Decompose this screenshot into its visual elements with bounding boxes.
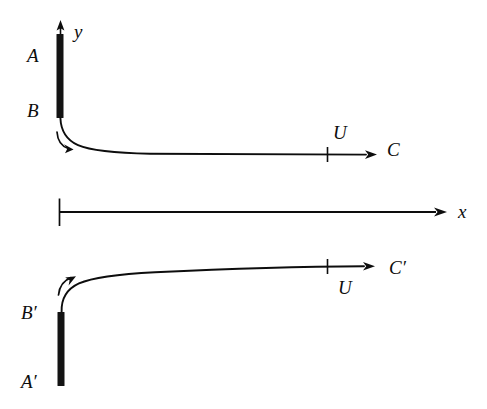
y-axis-group: [57, 20, 65, 34]
lower-streamline-path: [62, 266, 364, 312]
x-axis-label: x: [458, 202, 466, 221]
figure-canvas: y A B U C x C′ U B′ A′: [0, 0, 487, 409]
upper-plate-bar: [57, 34, 64, 118]
lower-plate-bar: [58, 312, 65, 386]
streamline-label-C-prime: C′: [389, 258, 406, 277]
y-axis-label: y: [74, 22, 82, 41]
plate-label-A: A: [27, 46, 39, 65]
plate-label-B-prime: B′: [21, 303, 37, 322]
upper-streamline-path: [60, 118, 366, 155]
streamline-label-C: C: [387, 140, 400, 159]
velocity-label-upper-U: U: [333, 123, 347, 142]
plate-label-B: B: [27, 101, 39, 120]
velocity-label-lower-U: U: [338, 278, 352, 297]
diagram-svg: [0, 0, 487, 409]
x-axis-group: [60, 199, 448, 227]
plate-label-A-prime: A′: [21, 372, 37, 391]
